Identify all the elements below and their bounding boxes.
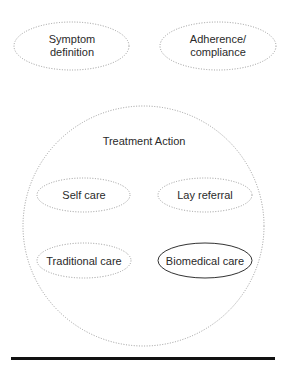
adherence-compliance-label: Adherence/ compliance <box>190 33 246 59</box>
bottom-rule <box>11 357 275 360</box>
self-care-label: Self care <box>62 189 105 202</box>
biomedical-care-label: Biomedical care <box>166 255 244 268</box>
traditional-care-label: Traditional care <box>46 255 121 268</box>
symptom-definition-label: Symptom definition <box>49 33 95 59</box>
adherence-compliance-line-1: Adherence/ <box>190 33 246 46</box>
symptom-definition-line-2: definition <box>49 46 95 59</box>
symptom-definition-line-1: Symptom <box>49 33 95 46</box>
adherence-compliance-line-2: compliance <box>190 46 246 59</box>
lay-referral-label: Lay referral <box>177 189 233 202</box>
treatment-action-title: Treatment Action <box>103 135 186 148</box>
diagram-canvas <box>0 0 294 367</box>
